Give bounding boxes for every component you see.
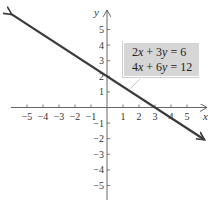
y-tick-label: 1	[99, 86, 104, 97]
y-tick-label: −5	[93, 180, 104, 191]
y-tick-label: 4	[99, 40, 104, 51]
y-tick-label: 3	[99, 55, 104, 66]
x-tick-label: 5	[185, 111, 190, 122]
equation-1: 2x + 3y = 6	[132, 45, 199, 60]
y-tick-label: −3	[93, 149, 104, 160]
x-tick-label: −5	[22, 111, 33, 122]
x-tick-label: 1	[121, 111, 126, 122]
annotation-leader-line	[130, 79, 140, 89]
coordinate-plane: −5−4−3−2−112345 −5−4−3−2−112345 x y	[0, 0, 218, 208]
x-tick-label: −2	[70, 111, 81, 122]
x-tick-label: −3	[54, 111, 65, 122]
y-axis-label: y	[93, 6, 99, 18]
y-tick-label: −2	[93, 133, 104, 144]
x-tick-label: 2	[137, 111, 142, 122]
y-tick-label: −4	[93, 164, 104, 175]
y-tick-label: −1	[93, 118, 104, 129]
equation-2: 4x + 6y = 12	[132, 60, 199, 75]
x-tick-label: 3	[153, 111, 158, 122]
x-axis-label: x	[202, 110, 208, 122]
x-tick-label: −4	[38, 111, 49, 122]
y-tick-label: 5	[99, 24, 104, 35]
equation-label-box: 2x + 3y = 6 4x + 6y = 12	[124, 43, 199, 76]
